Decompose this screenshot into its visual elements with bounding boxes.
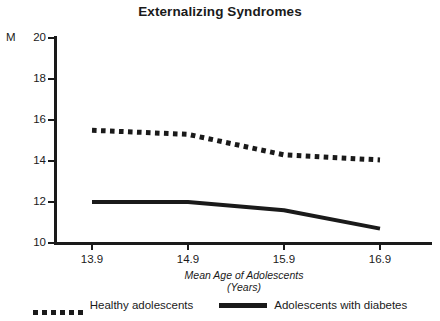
series-line-diabetes (92, 202, 380, 229)
legend-item-diabetes: Adolescents with diabetes (219, 299, 407, 311)
series-line-healthy (92, 130, 380, 160)
chart-figure: Externalizing Syndromes M 201816141210 1… (0, 0, 440, 321)
dotted-line-marker-icon (33, 302, 83, 308)
chart-legend: Healthy adolescents Adolescents with dia… (0, 299, 440, 311)
legend-label-diabetes: Adolescents with diabetes (274, 299, 407, 311)
legend-item-healthy: Healthy adolescents (33, 299, 194, 311)
x-axis-title-units: (Years) (56, 281, 432, 294)
solid-line-marker-icon (219, 303, 267, 308)
x-axis-title: Mean Age of Adolescents (56, 269, 432, 282)
legend-label-healthy: Healthy adolescents (90, 299, 194, 311)
